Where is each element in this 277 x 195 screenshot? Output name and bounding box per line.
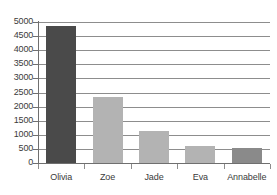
bar (93, 97, 123, 163)
x-axis-line (38, 163, 270, 164)
bar (139, 131, 169, 163)
x-tick (38, 164, 39, 169)
y-axis-tick-label: 0 (0, 158, 33, 167)
x-axis-tick-label: Zoe (84, 172, 130, 182)
bar (185, 146, 215, 163)
bars-group (38, 22, 270, 163)
x-axis-tick-label: Eva (177, 172, 223, 182)
y-axis-tick-label: 5000 (0, 17, 33, 26)
bar-chart: 0500100015002000250030003500400045005000… (0, 0, 277, 195)
y-axis-tick-label: 2000 (0, 102, 33, 111)
y-axis-tick-label: 1500 (0, 116, 33, 125)
x-tick (131, 164, 132, 169)
y-axis-tick-label: 4000 (0, 45, 33, 54)
y-axis-tick-label: 500 (0, 144, 33, 153)
x-axis-tick-label: Olivia (38, 172, 84, 182)
x-tick (270, 164, 271, 169)
y-axis-tick-label: 4500 (0, 31, 33, 40)
x-tick (84, 164, 85, 169)
bar (46, 26, 76, 163)
x-axis-tick-label: Jade (131, 172, 177, 182)
y-axis-tick-label: 3500 (0, 59, 33, 68)
x-axis-tick-label: Annabelle (224, 172, 270, 182)
y-axis-tick-label: 3000 (0, 73, 33, 82)
x-tick (224, 164, 225, 169)
y-axis-tick-label: 1000 (0, 130, 33, 139)
y-axis-tick-label: 2500 (0, 88, 33, 97)
bar (232, 148, 262, 163)
x-tick (177, 164, 178, 169)
